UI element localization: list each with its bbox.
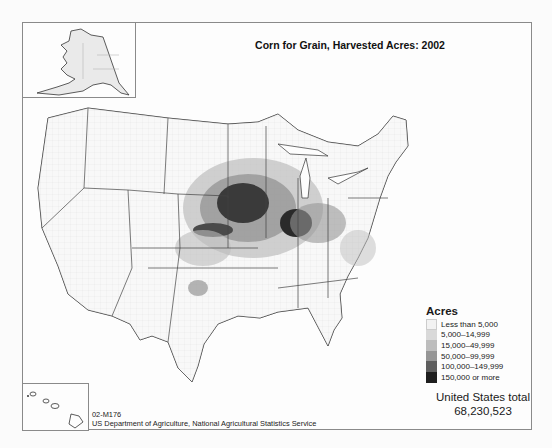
hawaii-shape xyxy=(23,384,88,430)
legend-item: 100,000–149,999 xyxy=(426,361,536,372)
source-credit: US Department of Agriculture, National A… xyxy=(92,419,316,428)
legend-label: Less than 5,000 xyxy=(441,320,498,329)
legend: Acres Less than 5,000 5,000–14,999 15,00… xyxy=(426,305,536,383)
us-total: United States total 68,230,523 xyxy=(418,390,548,418)
legend-title: Acres xyxy=(426,305,536,317)
legend-swatch xyxy=(426,330,437,341)
legend-swatch xyxy=(426,361,437,372)
alaska-inset xyxy=(22,22,136,98)
us-total-label: United States total xyxy=(418,390,548,404)
legend-item: 15,000–49,999 xyxy=(426,340,536,351)
legend-label: 100,000–149,999 xyxy=(441,362,503,371)
legend-swatch xyxy=(426,351,437,362)
us-county-map xyxy=(28,98,428,398)
legend-swatch xyxy=(426,319,437,330)
legend-label: 50,000–99,999 xyxy=(441,352,494,361)
hawaii-inset xyxy=(22,383,89,431)
legend-item: Less than 5,000 xyxy=(426,319,536,330)
legend-item: 50,000–99,999 xyxy=(426,351,536,362)
map-id: 02-M176 xyxy=(92,410,316,419)
legend-swatch xyxy=(426,340,437,351)
us-total-value: 68,230,523 xyxy=(418,404,548,418)
alaska-shape xyxy=(23,23,135,97)
legend-label: 5,000–14,999 xyxy=(441,330,490,339)
legend-swatch xyxy=(426,372,437,383)
legend-item: 150,000 or more xyxy=(426,372,536,383)
map-title: Corn for Grain, Harvested Acres: 2002 xyxy=(220,39,480,51)
legend-label: 15,000–49,999 xyxy=(441,341,494,350)
legend-label: 150,000 or more xyxy=(441,373,500,382)
source-note: 02-M176 US Department of Agriculture, Na… xyxy=(92,410,316,429)
legend-item: 5,000–14,999 xyxy=(426,330,536,341)
